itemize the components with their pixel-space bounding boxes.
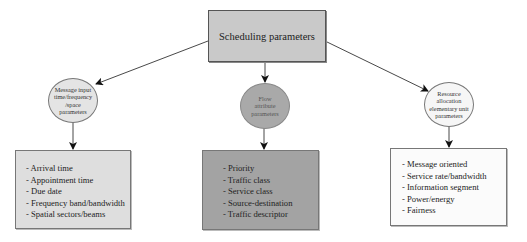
list-item: - Service class	[223, 186, 318, 198]
ellipse-label-line: parameters	[429, 112, 468, 120]
ellipse-label-line: attribute	[251, 102, 279, 110]
arrow-root-to-right	[325, 41, 428, 91]
list-item: - Information segment	[402, 182, 506, 194]
arrow-root-to-left	[96, 41, 208, 84]
list-item: - Spatial sectors/beams	[26, 209, 130, 221]
ellipse-label-line: elementary unit	[429, 105, 468, 113]
list-item: - Fairness	[402, 205, 506, 217]
list-item: - Appointment time	[26, 175, 130, 187]
ellipse-label-line: parameters	[54, 108, 92, 116]
list-item: - Traffic descriptor	[223, 209, 318, 221]
scheduling-parameters-diagram: Scheduling parameters Message input time…	[0, 0, 527, 242]
ellipse-label-line: Message input	[54, 86, 92, 94]
list-box-flow-attribute: - Priority - Traffic class - Service cla…	[202, 150, 319, 230]
list-item: - Message oriented	[402, 159, 506, 171]
ellipse-label-line: time/frequency	[54, 93, 92, 101]
root-node-label: Scheduling parameters	[219, 31, 315, 42]
ellipse-resource-allocation-parameters: Resource allocation elementary unit para…	[424, 82, 474, 127]
list-item: - Due date	[26, 186, 130, 198]
list-item: - Service rate/bandwidth	[402, 171, 506, 183]
list-item: - Arrival time	[26, 163, 130, 175]
ellipse-label-line: /space	[54, 101, 92, 109]
list-box-resource-allocation: - Message oriented - Service rate/bandwi…	[390, 148, 507, 226]
ellipse-label-line: parameters	[251, 110, 279, 118]
root-node-scheduling-parameters: Scheduling parameters	[208, 10, 326, 62]
ellipse-message-input-parameters: Message input time/frequency /space para…	[48, 78, 98, 123]
list-item: - Power/energy	[402, 194, 506, 206]
list-box-message-input: - Arrival time - Appointment time - Due …	[15, 150, 131, 229]
ellipse-flow-attribute-parameters: Flow attribute parameters	[240, 83, 290, 129]
list-item: - Priority	[223, 163, 318, 175]
ellipse-label-line: Flow	[251, 95, 279, 103]
list-item: - Traffic class	[223, 175, 318, 187]
list-item: - Frequency band/bandwidth	[26, 198, 130, 210]
ellipse-label-line: allocation	[429, 97, 468, 105]
list-item: - Source-destination	[223, 198, 318, 210]
ellipse-label-line: Resource	[429, 90, 468, 98]
